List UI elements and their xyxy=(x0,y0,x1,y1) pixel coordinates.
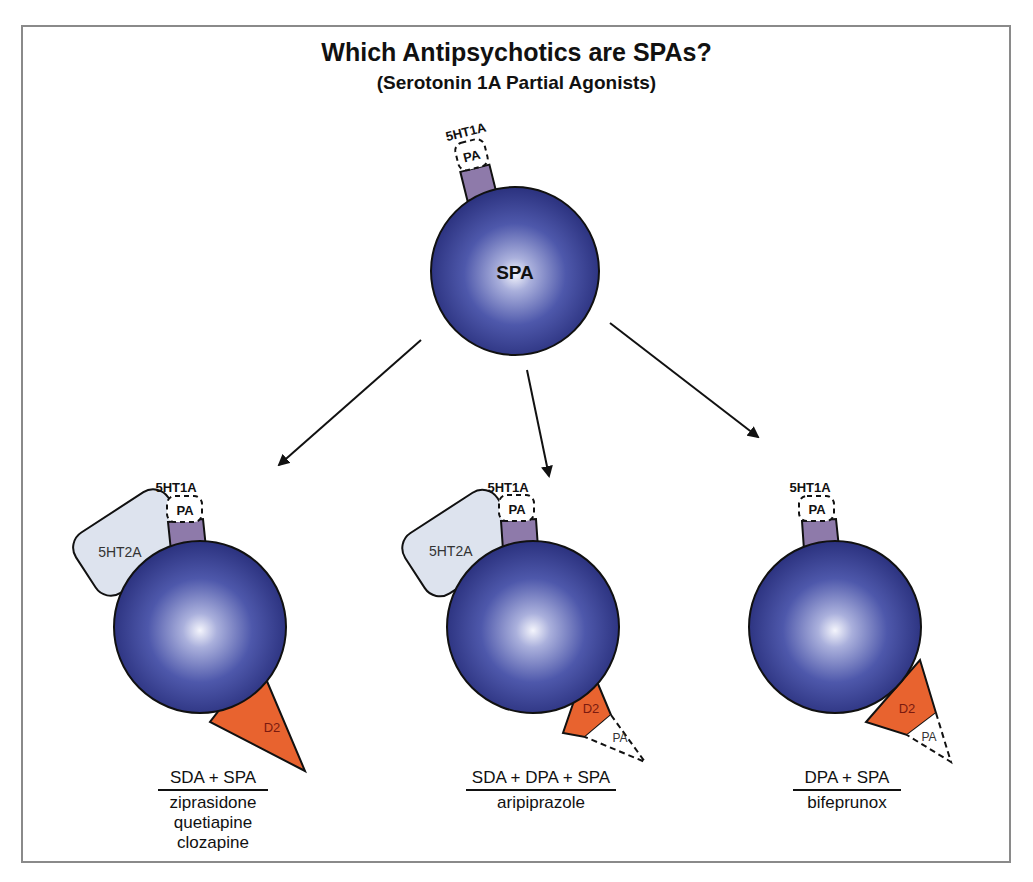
right-molecule: D2 PA PA 5HT1A xyxy=(749,480,951,762)
middle-caption: SDA + DPA + SPA aripiprazole xyxy=(466,768,616,813)
middle-5ht2a-label: 5HT2A xyxy=(429,543,473,559)
left-pa-label: PA xyxy=(176,503,194,518)
right-caption-head: DPA + SPA xyxy=(793,768,901,791)
middle-5ht1a-label: 5HT1A xyxy=(487,480,529,495)
right-d2-label: D2 xyxy=(899,701,916,716)
middle-caption-head: SDA + DPA + SPA xyxy=(466,768,616,791)
arrow-left xyxy=(279,340,421,465)
middle-d2-label: D2 xyxy=(583,701,600,716)
left-d2-label: D2 xyxy=(264,720,281,735)
right-5ht1a-label: 5HT1A xyxy=(789,480,831,495)
middle-pa-label: PA xyxy=(508,502,526,517)
top-ball-label: SPA xyxy=(496,262,534,283)
right-caption: DPA + SPA bifeprunox xyxy=(793,768,901,813)
left-ball xyxy=(114,541,286,713)
right-5ht1a-receptor: PA 5HT1A xyxy=(789,480,839,550)
right-drug-1: bifeprunox xyxy=(793,793,901,813)
left-caption-head: SDA + SPA xyxy=(158,768,268,791)
arrow-middle xyxy=(527,370,549,476)
diagram-canvas: PA 5HT1A SPA 5HT2A D2 PA 5HT1A 5HT2A xyxy=(0,0,1033,882)
top-spa-molecule: PA 5HT1A SPA xyxy=(431,119,599,355)
middle-ball xyxy=(447,541,619,713)
left-molecule: 5HT2A D2 PA 5HT1A xyxy=(66,480,305,771)
middle-molecule: 5HT2A D2 PA PA 5HT1A xyxy=(395,480,645,762)
arrow-right xyxy=(610,323,758,437)
left-5ht1a-label: 5HT1A xyxy=(155,480,197,495)
right-d2-pa-label: PA xyxy=(921,730,936,744)
right-ball xyxy=(749,541,921,713)
left-drug-3: clozapine xyxy=(158,833,268,853)
right-pa-label: PA xyxy=(808,502,826,517)
middle-drug-1: aripiprazole xyxy=(466,793,616,813)
left-caption: SDA + SPA ziprasidone quetiapine clozapi… xyxy=(158,768,268,853)
middle-d2-pa-label: PA xyxy=(612,731,627,745)
left-drug-2: quetiapine xyxy=(158,813,268,833)
left-drug-1: ziprasidone xyxy=(158,793,268,813)
left-5ht2a-label: 5HT2A xyxy=(98,544,142,560)
